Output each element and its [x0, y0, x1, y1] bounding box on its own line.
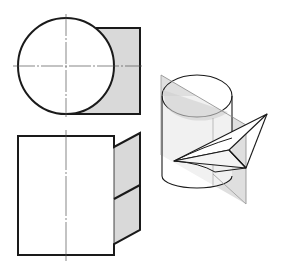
technical-drawing [0, 0, 283, 270]
front-view [18, 130, 140, 261]
isometric-view [161, 75, 267, 204]
front-view-shaded-region [114, 133, 140, 244]
top-view [13, 14, 142, 117]
